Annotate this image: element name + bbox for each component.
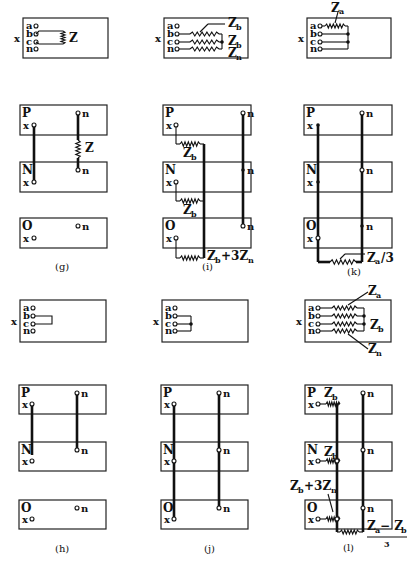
node-x <box>316 402 320 406</box>
terminal-c <box>31 322 35 326</box>
node-x-label: x <box>22 399 29 410</box>
node-x-n <box>32 180 36 184</box>
node-x-o <box>30 517 34 521</box>
node-n-n <box>361 448 365 452</box>
node-x-label: x <box>307 120 314 131</box>
node-n-o <box>360 224 364 228</box>
terminal-n <box>34 47 38 51</box>
fault-box-i: xabcnZbZbZn <box>155 16 248 62</box>
terminal-b <box>175 32 179 36</box>
node-n-p <box>76 111 80 115</box>
connections-l: ZbZbZb+3ZnZa − Zb3(l) <box>290 386 407 553</box>
sequence-label: N <box>165 163 176 177</box>
node-x-n <box>316 180 320 184</box>
sequence-label: O <box>306 219 316 233</box>
fault-box-g: xabcnZ <box>14 18 108 58</box>
node-x-label: x <box>164 514 171 525</box>
fault-connection-diagram: xabcnZPxnNxnOxnZ(g)xabcnZbZbZnPxnNxnOxnZ… <box>0 0 416 568</box>
node-n-p <box>241 111 245 115</box>
node-x <box>174 236 178 240</box>
sequence-label: P <box>21 386 30 400</box>
sequence-label: O <box>21 501 31 515</box>
node-n <box>217 506 221 510</box>
fault-box-j: xabcn <box>153 300 248 342</box>
junction <box>189 322 193 326</box>
node-n-o <box>76 224 80 228</box>
sequence-network-zero-h: Oxn <box>19 500 106 529</box>
terminal-n <box>175 47 179 51</box>
sequence-label: O <box>22 219 32 233</box>
sequence-label: N <box>307 443 318 457</box>
bus-label-x: x <box>14 33 21 44</box>
impedance-za <box>325 24 345 28</box>
node-n-n <box>75 448 79 452</box>
node-n-label: n <box>82 108 90 119</box>
node-n-label: n <box>247 108 255 119</box>
impedance-label-zb-sub: b <box>191 152 197 162</box>
node-n-label: n <box>367 445 375 456</box>
fraction-zb-sub: b <box>401 525 407 535</box>
impedance-label-zb-sub: b <box>332 451 338 461</box>
sequence-label: N <box>21 443 32 457</box>
node-x <box>316 459 320 463</box>
leader <box>200 24 208 32</box>
terminal-a <box>173 306 177 310</box>
node-x-label: x <box>166 177 173 188</box>
impedance-2 <box>190 40 219 44</box>
node-n-n <box>360 168 364 172</box>
impedance-z <box>61 31 65 44</box>
impedance-label-zb-sub: b <box>191 209 197 219</box>
sequence-label: P <box>307 386 316 400</box>
fault-box-k: xabcnZa <box>298 1 391 58</box>
junction <box>362 314 366 318</box>
node-x-p <box>30 402 34 406</box>
sequence-label: P <box>306 106 315 120</box>
node-x-label: x <box>164 399 171 410</box>
impedance-3 <box>190 47 219 51</box>
node-n-label: n <box>247 221 255 232</box>
impedance-3 <box>332 329 357 333</box>
wire-b <box>36 31 63 34</box>
node-x-label: x <box>308 399 315 410</box>
bus-label-x: x <box>298 33 305 44</box>
sequence-network-positive-l: Pxn <box>305 385 392 414</box>
impedance-bottom <box>340 530 359 534</box>
node-x-n <box>30 459 34 463</box>
sequence-label: P <box>163 386 172 400</box>
terminal-n <box>31 329 35 333</box>
node-n-label: n <box>81 503 89 514</box>
terminal-b <box>318 32 322 36</box>
node-x-bus-o <box>335 517 339 521</box>
sequence-label: N <box>306 163 317 177</box>
terminal-a <box>34 24 38 28</box>
terminal-n <box>318 47 322 51</box>
node-x-label: x <box>307 177 314 188</box>
node-n-label: n <box>82 165 90 176</box>
impedance-label-div3: /3 <box>381 251 394 265</box>
terminal-b <box>316 314 320 318</box>
node-n <box>217 448 221 452</box>
fraction-minus-zb: − Z <box>380 519 403 533</box>
terminal-a <box>175 24 179 28</box>
node-x-label: x <box>22 456 29 467</box>
panel-caption: (g) <box>55 261 69 272</box>
node-n-label: n <box>367 388 375 399</box>
impedance-branch <box>180 256 200 260</box>
node-n-p <box>361 391 365 395</box>
sequence-label: N <box>163 443 174 457</box>
terminal-b <box>173 314 177 318</box>
node-x <box>172 517 176 521</box>
sequence-network-zero-i: Oxn <box>163 218 255 248</box>
zero-impedance-label-plus: +3Z <box>221 249 248 263</box>
terminal-c <box>316 322 320 326</box>
node-n-label: n <box>366 165 374 176</box>
panel-caption: (i) <box>202 261 213 272</box>
terminal-c <box>173 322 177 326</box>
panel-caption: (k) <box>347 266 361 277</box>
sequence-network-zero-g: Oxn <box>20 218 107 248</box>
node-x-o <box>316 236 320 240</box>
leader-za <box>348 292 368 305</box>
terminal-label-n: n <box>310 43 318 54</box>
junction <box>220 40 224 44</box>
junction <box>346 32 350 36</box>
